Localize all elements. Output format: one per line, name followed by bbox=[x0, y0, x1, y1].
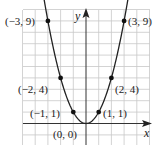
point-label-neg2-4: (−2, 4) bbox=[18, 83, 48, 96]
point-label-neg1-1: (−1, 1) bbox=[30, 107, 60, 120]
x-axis-label: x bbox=[143, 126, 150, 140]
point-label-neg3-9: (−3, 9) bbox=[5, 15, 35, 28]
data-point bbox=[46, 19, 51, 24]
point-label-1-1: (1, 1) bbox=[103, 107, 127, 120]
point-label-0-0: (0, 0) bbox=[53, 128, 77, 141]
parabola-chart: y x (−3, 9) (3, 9) (−2, 4) (2, 4) (−1, 1… bbox=[0, 0, 166, 157]
data-point bbox=[71, 110, 76, 115]
data-point bbox=[58, 76, 63, 81]
y-axis bbox=[83, 8, 90, 145]
data-point bbox=[96, 110, 101, 115]
data-point bbox=[122, 19, 127, 24]
y-axis-label: y bbox=[74, 9, 81, 23]
data-point bbox=[109, 76, 114, 81]
point-label-2-4: (2, 4) bbox=[115, 83, 139, 96]
point-label-3-9: (3, 9) bbox=[128, 15, 152, 28]
